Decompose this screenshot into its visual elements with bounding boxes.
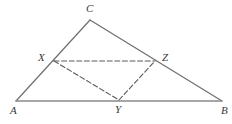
segment-XY [54, 61, 119, 100]
vertex-label-A: A [10, 105, 17, 116]
vertex-label-B: B [221, 105, 228, 116]
vertex-label-X: X [38, 52, 45, 63]
vertex-label-Z: Z [162, 52, 168, 63]
vertex-label-C: C [86, 3, 93, 14]
vertex-label-Y: Y [115, 104, 121, 115]
inner-dashed-figure [54, 61, 155, 100]
segment-YZ [119, 61, 155, 100]
geometry-figure: C X Z A Y B [0, 0, 232, 124]
